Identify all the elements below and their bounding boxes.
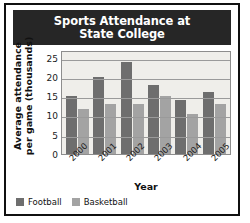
y-axis-tick-label: 0 — [34, 150, 58, 160]
y-axis-tick-label: 20 — [34, 73, 58, 83]
y-axis-title-line-1: Average attendance — [12, 42, 23, 150]
y-axis-ticks: 0510152025 — [34, 51, 58, 155]
chart-figure: Sports Attendance at State College Avera… — [4, 3, 240, 216]
chart-title: Sports Attendance at State College — [54, 15, 190, 41]
bar-group — [121, 52, 144, 154]
chart-title-line-1: Sports Attendance at — [54, 14, 190, 28]
legend-swatch-icon — [16, 198, 24, 206]
gridline — [62, 117, 230, 118]
gridline — [62, 137, 230, 138]
y-axis-title-line-2: per game (thousands) — [23, 37, 34, 156]
bar-group — [93, 52, 116, 154]
bar-group — [203, 52, 226, 154]
gridline — [62, 98, 230, 99]
bar-football-2002 — [121, 62, 132, 154]
y-axis-tick-label: 25 — [34, 54, 58, 64]
bar-football-2005 — [203, 92, 214, 154]
chart-title-bar: Sports Attendance at State College — [13, 10, 231, 45]
gridline — [62, 79, 230, 80]
plot-area — [61, 51, 231, 155]
chart-body: Average attendance per game (thousands) … — [6, 47, 238, 214]
bar-group — [148, 52, 171, 154]
bar-football-2004 — [175, 100, 186, 154]
y-axis-title: Average attendance per game (thousands) — [10, 35, 36, 157]
legend-label: Football — [28, 197, 62, 207]
legend-item-basketball: Basketball — [72, 197, 128, 207]
y-axis-tick-label: 5 — [34, 131, 58, 141]
legend-item-football: Football — [16, 197, 62, 207]
bar-football-2000 — [66, 96, 77, 154]
bar-groups — [62, 52, 230, 154]
bar-group — [66, 52, 89, 154]
y-axis-tick-label: 10 — [34, 111, 58, 121]
y-axis-tick-label: 15 — [34, 92, 58, 102]
bar-group — [175, 52, 198, 154]
gridline — [62, 60, 230, 61]
chart-legend: FootballBasketball — [16, 197, 236, 207]
bar-football-2003 — [148, 85, 159, 154]
x-axis-title: Year — [61, 181, 231, 192]
legend-swatch-icon — [72, 198, 80, 206]
chart-title-line-2: State College — [79, 27, 165, 41]
legend-label: Basketball — [84, 197, 128, 207]
bar-football-2001 — [93, 77, 104, 154]
x-axis-ticks: 200020012002200320042005 — [61, 156, 231, 182]
